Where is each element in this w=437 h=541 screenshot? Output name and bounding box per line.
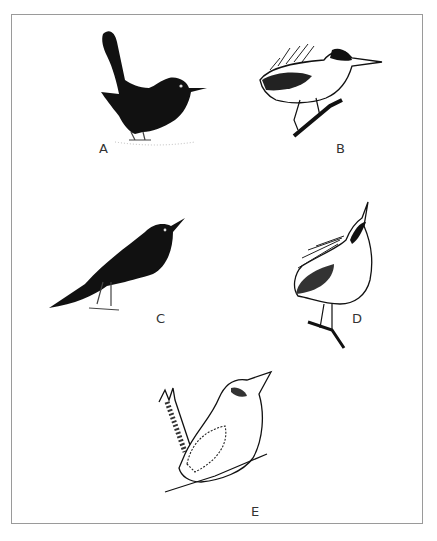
bird-e-illustration xyxy=(155,368,285,498)
panel-label-e: E xyxy=(251,505,259,518)
panel-label-a: A xyxy=(99,142,108,155)
bird-icon xyxy=(101,31,207,134)
bird-c-illustration xyxy=(250,40,385,140)
panel-label-c: B xyxy=(336,142,345,155)
bird-d-illustration xyxy=(288,200,378,350)
panel-label-d: D xyxy=(352,312,362,325)
bird-icon xyxy=(49,218,185,308)
bird-a-illustration xyxy=(95,28,215,148)
panel-label-b: C xyxy=(156,312,165,325)
bird-b-illustration xyxy=(45,212,190,322)
